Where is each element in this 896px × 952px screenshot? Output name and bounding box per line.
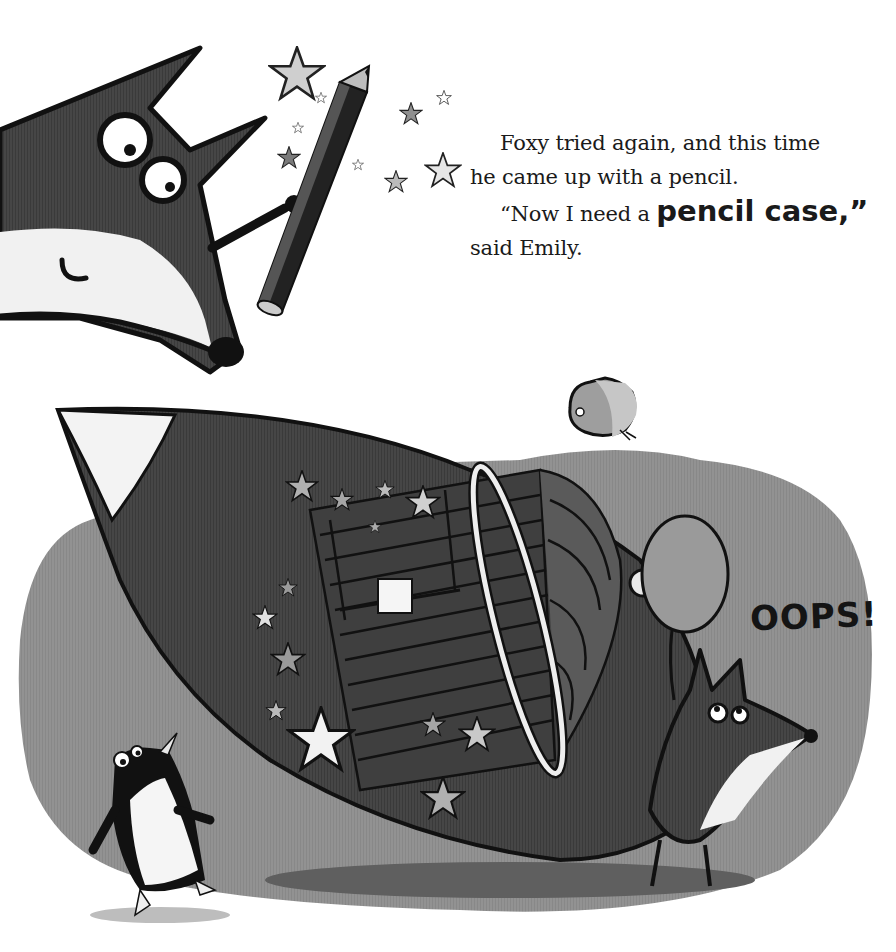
story-line-2: he came up with a pencil. [470, 160, 890, 194]
story-text: Foxy tried again, and this time he came … [470, 126, 890, 265]
bird [570, 378, 637, 440]
fox-head-large [0, 48, 303, 372]
story-emphasis-pencil-case: pencil case,” [656, 194, 868, 228]
story-line-3-prefix: “Now I need a [500, 202, 656, 226]
story-line-4: said Emily. [470, 231, 890, 265]
story-line-1: Foxy tried again, and this time [470, 126, 890, 160]
book-page: Foxy tried again, and this time he came … [0, 0, 896, 952]
sound-effect-oops: OOPS! [749, 594, 878, 638]
pencil [256, 66, 369, 318]
story-line-3: “Now I need a pencil case,” [470, 194, 890, 231]
floor-shadow [265, 862, 755, 898]
